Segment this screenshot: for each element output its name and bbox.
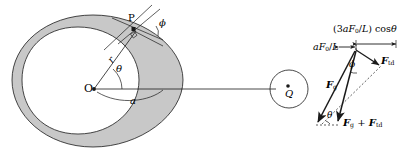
theta-angle-arc-right: [326, 121, 330, 124]
surface-point-p: [132, 27, 136, 31]
figure-root: O P r θ ϕ a Q (3aF0/L) cosθ aF0/L Ftd Fg…: [0, 0, 418, 157]
label-vector-f-g: Fg: [326, 80, 337, 91]
label-semi-major-a: a: [130, 96, 136, 106]
label-theta-right: θ: [327, 111, 332, 120]
label-point-p: P: [128, 13, 135, 23]
label-companion-q: Q: [285, 89, 293, 99]
plus-operator: +: [357, 117, 365, 128]
label-vector-f-td: Ftd: [381, 56, 395, 67]
label-phi-right: ϕ: [349, 60, 355, 69]
paren-close: ): [368, 23, 372, 34]
symbol-L-2: L: [332, 41, 338, 52]
label-vector-resultant: Fg + Ftd: [343, 118, 382, 129]
vector-f-td: [356, 50, 379, 65]
label-tangential-component: (3aF0/L) cosθ: [333, 24, 397, 35]
subscript-td-2: td: [376, 121, 382, 128]
symbol-F-bold-td-2: F: [369, 117, 376, 128]
subscript-g: g: [333, 83, 337, 90]
label-radial-component: aF0/L: [313, 42, 339, 53]
label-center-o: O: [84, 83, 93, 94]
label-phi-left: ϕ: [159, 18, 166, 28]
cos-operator: cos: [375, 23, 391, 34]
annulus-shaded-region: [12, 15, 183, 147]
inner-boundary-circle: [22, 27, 139, 134]
subscript-g-2: g: [350, 121, 354, 128]
subscript-td: td: [388, 59, 394, 66]
label-theta-left: θ: [116, 64, 122, 74]
label-theta-in-cos: θ: [391, 23, 397, 34]
